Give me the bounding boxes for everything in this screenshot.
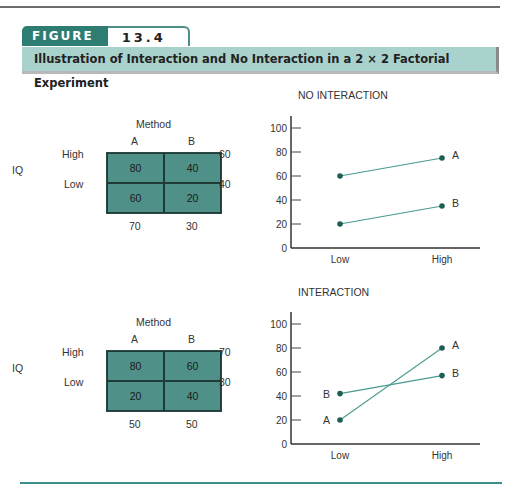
chart-interaction: 020406080100LowHighABAB (270, 304, 522, 464)
y-tick-label: 0 (281, 243, 287, 254)
col-mean-a: 50 (129, 418, 141, 430)
y-tick-label: 80 (276, 147, 288, 158)
y-tick-label: 80 (276, 343, 288, 354)
data-point (337, 173, 343, 179)
row-factor-label: IQ (12, 362, 23, 374)
cell-high-b: 40 (164, 153, 221, 183)
row-mean-high: 70 (219, 346, 231, 358)
cell-grid: 80 60 20 40 (106, 350, 222, 412)
y-tick-label: 40 (276, 391, 288, 402)
series-line-a (340, 348, 442, 420)
cell-high-b: 60 (164, 351, 221, 381)
series-line-a (340, 158, 442, 176)
x-tick-label: Low (331, 450, 350, 461)
chart-title-interaction: INTERACTION (298, 286, 369, 298)
data-point (439, 203, 445, 209)
cell-high-a: 80 (107, 351, 164, 381)
y-tick-label: 60 (276, 171, 288, 182)
data-point (439, 345, 445, 351)
series-label: B (452, 367, 459, 379)
col-mean-b: 50 (186, 418, 198, 430)
cell-low-a: 20 (107, 381, 164, 411)
y-tick-label: 20 (276, 219, 288, 230)
col-mean-b: 30 (186, 220, 198, 232)
table-interaction: Method A B IQ High Low 80 60 20 40 70 30… (12, 316, 252, 456)
cell-high-a: 80 (107, 153, 164, 183)
row-label-high: High (62, 148, 84, 160)
series-label: A (452, 149, 459, 161)
column-label-a: A (131, 333, 138, 345)
x-tick-label: Low (331, 254, 350, 265)
series-label-low: B (323, 388, 330, 400)
chart-no-interaction: 020406080100LowHighAB (270, 108, 522, 268)
figure-caption: Illustration of Interaction and No Inter… (22, 47, 496, 95)
figure-tab: FIGURE 13.4 (22, 26, 190, 46)
y-tick-label: 100 (270, 319, 287, 330)
data-point (337, 221, 343, 227)
series-label: A (452, 339, 459, 351)
series-label: B (452, 197, 459, 209)
cell-low-b: 20 (164, 183, 221, 213)
series-label-low: A (323, 414, 330, 426)
cell-low-a: 60 (107, 183, 164, 213)
bottom-rule (20, 482, 502, 484)
column-factor-label: Method (136, 118, 171, 130)
row-mean-low: 30 (219, 376, 231, 388)
x-tick-label: High (432, 450, 453, 461)
y-tick-label: 60 (276, 367, 288, 378)
series-line-b (340, 206, 442, 224)
cell-low-b: 40 (164, 381, 221, 411)
data-point (337, 391, 343, 397)
y-tick-label: 40 (276, 195, 288, 206)
figure-label: FIGURE (22, 26, 108, 46)
column-label-b: B (188, 135, 195, 147)
row-label-high: High (62, 346, 84, 358)
data-point (439, 373, 445, 379)
column-label-b: B (188, 333, 195, 345)
chart-title-no-interaction: NO INTERACTION (298, 89, 388, 101)
row-mean-high: 60 (219, 148, 231, 160)
col-mean-a: 70 (129, 220, 141, 232)
series-line-b (340, 376, 442, 394)
y-tick-label: 100 (270, 123, 287, 134)
column-factor-label: Method (136, 316, 171, 328)
row-mean-low: 40 (219, 178, 231, 190)
row-label-low: Low (64, 376, 83, 388)
figure-caption-band: Illustration of Interaction and No Inter… (22, 47, 499, 74)
row-factor-label: IQ (12, 164, 23, 176)
y-tick-label: 20 (276, 415, 288, 426)
figure-number: 13.4 (108, 26, 190, 46)
x-tick-label: High (432, 254, 453, 265)
y-tick-label: 0 (281, 439, 287, 450)
data-point (439, 155, 445, 161)
table-no-interaction: Method A B IQ High Low 80 40 60 20 60 40… (12, 118, 252, 258)
column-label-a: A (131, 135, 138, 147)
top-rule (0, 6, 500, 8)
data-point (337, 417, 343, 423)
row-label-low: Low (64, 178, 83, 190)
cell-grid: 80 40 60 20 (106, 152, 222, 214)
